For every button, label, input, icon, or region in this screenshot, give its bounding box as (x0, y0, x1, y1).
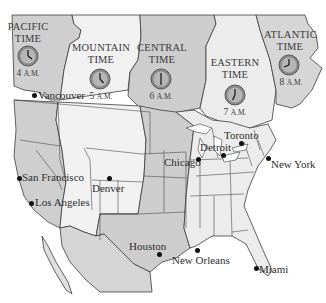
zone-time-atlantic: 8 A.M. (272, 77, 310, 87)
city-label-denver: Denver (92, 182, 124, 194)
city-label-toronto: Toronto (224, 129, 259, 141)
city-label-san-francisco: San Francisco (22, 171, 84, 183)
city-label-detroit: Detroit (200, 141, 231, 153)
ampm: A.M. (24, 69, 40, 78)
zone-name: PACIFIC (2, 21, 54, 33)
city-marker-new-orleans (195, 248, 200, 253)
zone-name-suffix: TIME (264, 41, 316, 53)
city-marker-detroit (221, 153, 226, 158)
hour: 7 (224, 107, 229, 117)
clock-mountain-icon (90, 69, 110, 89)
city-label-vancouver: Vancouver (38, 89, 85, 101)
zone-name-suffix: TIME (208, 69, 262, 81)
zone-label-eastern: EASTERN TIME (208, 57, 262, 81)
zone-name-suffix: TIME (2, 33, 54, 45)
zone-name: MOUNTAIN (72, 42, 130, 54)
clock-pacific-icon (18, 46, 38, 66)
city-marker-vancouver (32, 93, 37, 98)
city-marker-los-angeles (29, 201, 34, 206)
city-label-miami: Miami (259, 263, 288, 275)
hour: 5 (90, 91, 95, 101)
zone-name-suffix: TIME (72, 54, 130, 66)
clock-atlantic-icon (279, 55, 299, 75)
ampm: A.M. (97, 92, 113, 101)
clock-eastern-icon (225, 85, 245, 105)
zone-label-pacific: PACIFIC TIME (2, 21, 54, 45)
city-marker-denver (107, 176, 112, 181)
city-label-new-orleans: New Orleans (172, 254, 230, 266)
zone-name: EASTERN (208, 57, 262, 69)
hour: 4 (17, 68, 22, 78)
ampm: A.M. (231, 108, 247, 117)
city-marker-houston (157, 252, 162, 257)
zone-time-eastern: 7 A.M. (216, 107, 254, 117)
zone-time-mountain: 5 A.M. (82, 91, 120, 101)
hour: 6 (150, 91, 155, 101)
city-label-los-angeles: Los Angeles (35, 196, 90, 208)
clock-central-icon (151, 69, 171, 89)
zone-label-central: CENTRAL TIME (136, 42, 188, 66)
zone-label-mountain: MOUNTAIN TIME (72, 42, 130, 66)
city-label-new-york: New York (271, 158, 316, 170)
ampm: A.M. (287, 78, 303, 87)
hour: 8 (280, 77, 285, 87)
ampm: A.M. (157, 92, 173, 101)
zone-name: ATLANTIC (264, 29, 316, 41)
zone-name: CENTRAL (136, 42, 188, 54)
city-label-chicago: Chicago (164, 156, 201, 168)
zone-time-central: 6 A.M. (142, 91, 180, 101)
zone-label-atlantic: ATLANTIC TIME (264, 29, 316, 53)
city-marker-toronto (239, 141, 244, 146)
zone-time-pacific: 4 A.M. (10, 68, 46, 78)
city-label-houston: Houston (129, 240, 166, 252)
zone-name-suffix: TIME (136, 54, 188, 66)
